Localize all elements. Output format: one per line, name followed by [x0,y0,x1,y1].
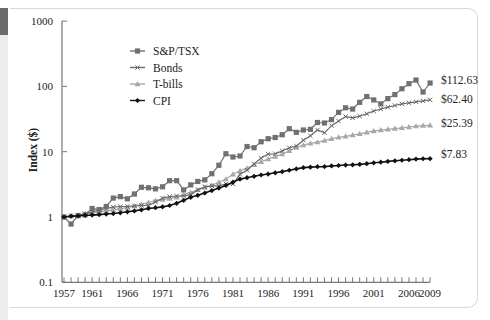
data-point-marker [427,156,432,161]
data-point-marker [174,201,179,206]
line-chart: 10001001010.1195719611966197119761981198… [0,0,490,320]
data-point-marker [68,221,73,226]
series-bonds [62,98,432,220]
data-point-marker [322,164,327,169]
data-point-marker [392,158,397,163]
data-point-marker [280,132,285,137]
legend-label: Bonds [153,62,183,74]
data-point-marker [209,188,214,193]
data-point-marker [406,157,411,162]
data-point-marker [413,157,418,162]
data-point-marker [350,106,355,111]
data-point-marker [385,96,390,101]
legend-item: CPI [130,95,171,107]
data-point-marker [315,120,320,125]
legend-swatch-marker [135,98,140,103]
data-point-marker [329,163,334,168]
end-value-label: $7.83 [441,148,467,160]
data-point-marker [146,185,151,190]
data-point-marker [244,175,249,180]
data-point-marker [413,77,418,82]
end-value-label: $62.40 [441,93,473,105]
data-point-marker [160,184,165,189]
data-point-marker [97,207,102,212]
data-point-marker [357,100,362,105]
data-point-marker [266,136,271,141]
legend-item: T-bills [130,78,183,90]
y-tick-label: 1000 [31,15,54,27]
data-point-marker [223,151,228,156]
data-point-marker [188,182,193,187]
data-point-marker [371,97,376,102]
data-point-marker [266,171,271,176]
data-point-marker [216,163,221,168]
x-tick-label: 1961 [81,287,103,299]
data-point-marker [336,110,341,115]
x-tick-label: 1966 [116,287,139,299]
series-lines [61,77,433,226]
data-point-marker [202,177,207,182]
data-point-marker [287,126,292,131]
y-tick-label: 10 [42,146,54,158]
data-point-marker [357,162,362,167]
data-point-marker [315,164,320,169]
data-point-marker [280,169,285,174]
data-point-marker [167,178,172,183]
series-line [64,100,430,217]
y-axis-label: Index ($) [27,128,40,173]
data-point-marker [378,101,383,106]
data-point-marker [364,94,369,99]
data-point-marker [287,168,292,173]
series-line [64,125,430,217]
x-tick-label: 2006 [398,287,421,299]
data-point-marker [244,144,249,149]
end-value-label: $112.63 [441,74,478,86]
data-point-marker [230,154,235,159]
data-point-marker [273,170,278,175]
data-point-marker [118,194,123,199]
data-point-marker [294,130,299,135]
data-point-marker [308,165,313,170]
data-point-marker [125,209,130,214]
data-point-marker [125,196,130,201]
data-point-marker [378,160,383,165]
x-tick-label: 1991 [292,287,314,299]
data-point-marker [273,135,278,140]
data-point-marker [259,172,264,177]
data-point-marker [427,80,432,85]
x-tick-label: 2009 [419,287,442,299]
axes: 10001001010.1195719611966197119761981198… [31,15,442,299]
data-point-marker [132,191,137,196]
x-tick-label: 2001 [363,287,385,299]
series-s-p-tsx [61,77,432,226]
legend-item: Bonds [130,62,183,74]
data-point-marker [174,178,179,183]
data-point-marker [111,195,116,200]
y-tick-label: 0.1 [39,276,53,288]
data-point-marker [209,171,214,176]
data-point-marker [90,206,95,211]
data-point-marker [399,86,404,91]
legend-label: S&P/TSX [153,45,200,57]
data-point-marker [406,81,411,86]
data-point-marker [308,127,313,132]
data-point-marker [195,179,200,184]
data-point-marker [230,171,236,176]
data-point-marker [420,156,425,161]
y-tick-label: 1 [48,211,54,223]
x-tick-label: 1981 [222,287,244,299]
data-point-marker [195,193,200,198]
y-tick-label: 100 [37,80,54,92]
data-point-marker [420,89,425,94]
data-point-marker [153,205,158,210]
data-point-marker [139,185,144,190]
legend-label: T-bills [153,78,183,90]
data-point-marker [167,203,172,208]
data-point-marker [132,208,137,213]
data-point-marker [364,161,369,166]
end-value-label: $25.39 [441,117,473,129]
data-point-marker [181,198,186,203]
data-point-marker [259,139,264,144]
data-point-marker [104,204,109,209]
data-point-marker [251,174,256,179]
